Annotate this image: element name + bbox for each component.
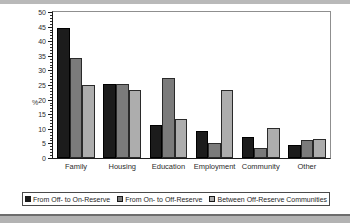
- y-axis-tick-label: 45: [38, 23, 46, 30]
- bar[interactable]: [254, 148, 267, 158]
- legend-label: Between Off-Reserve Communities: [217, 196, 327, 203]
- bar[interactable]: [208, 143, 221, 158]
- y-axis-tick-label: 30: [38, 67, 46, 74]
- y-axis-tick-label: 10: [38, 125, 46, 132]
- bar-chart-figure: % 05101520253035404550 FamilyHousingEduc…: [0, 0, 350, 223]
- bar[interactable]: [57, 28, 70, 158]
- x-axis-tick-label: Housing: [108, 163, 136, 171]
- bar-group: [288, 12, 326, 158]
- bar[interactable]: [82, 85, 95, 158]
- y-axis-tick-label: 5: [42, 140, 46, 147]
- legend-label: From Off- to On-Reserve: [33, 196, 110, 203]
- bar-group: [242, 12, 280, 158]
- x-axis-tick-label: Other: [298, 163, 317, 171]
- x-axis-tick-label: Family: [65, 163, 87, 171]
- scan-band-top: [0, 0, 350, 4]
- bar[interactable]: [221, 90, 234, 158]
- scan-band-bottom: [0, 216, 350, 223]
- y-axis-tick-label: 50: [38, 9, 46, 16]
- bar[interactable]: [288, 145, 301, 158]
- legend-swatch-icon: [25, 196, 31, 202]
- bar-group: [196, 12, 234, 158]
- bar-group: [57, 12, 95, 158]
- legend-swatch-icon: [117, 196, 123, 202]
- legend-item[interactable]: From Off- to On-Reserve: [25, 196, 110, 203]
- bar[interactable]: [301, 140, 314, 158]
- bar[interactable]: [150, 125, 163, 158]
- bar[interactable]: [313, 139, 326, 158]
- bar[interactable]: [116, 84, 129, 158]
- bar-group: [103, 12, 141, 158]
- y-axis-tick-label: 40: [38, 38, 46, 45]
- x-axis-tick-label: Community: [242, 163, 280, 171]
- bars-layer: [53, 12, 330, 158]
- y-axis-tick-label: 0: [42, 155, 46, 162]
- bar[interactable]: [162, 78, 175, 158]
- y-axis-tick-label: 15: [38, 111, 46, 118]
- bar[interactable]: [196, 131, 209, 158]
- y-axis-tick-label: 20: [38, 96, 46, 103]
- y-axis-tick-labels: 05101520253035404550: [24, 11, 48, 159]
- legend-swatch-icon: [209, 196, 215, 202]
- legend-item[interactable]: From On- to Off-Reserve: [117, 196, 202, 203]
- bar[interactable]: [175, 119, 188, 158]
- bar[interactable]: [267, 128, 280, 158]
- legend-item[interactable]: Between Off-Reserve Communities: [209, 196, 327, 203]
- legend-label: From On- to Off-Reserve: [125, 196, 202, 203]
- x-axis-tick-label: Employment: [194, 163, 236, 171]
- bar-group: [150, 12, 188, 158]
- bar[interactable]: [103, 84, 116, 158]
- bar[interactable]: [129, 90, 142, 158]
- x-axis-tick-label: Education: [152, 163, 185, 171]
- y-axis-tick-label: 35: [38, 52, 46, 59]
- x-axis-tick-labels: FamilyHousingEducationEmploymentCommunit…: [53, 163, 330, 177]
- chart-legend: From Off- to On-ReserveFrom On- to Off-R…: [22, 192, 330, 206]
- plot-area: % 05101520253035404550 FamilyHousingEduc…: [24, 11, 331, 171]
- y-axis-tick-label: 25: [38, 82, 46, 89]
- bar[interactable]: [70, 58, 83, 158]
- bar[interactable]: [242, 137, 255, 158]
